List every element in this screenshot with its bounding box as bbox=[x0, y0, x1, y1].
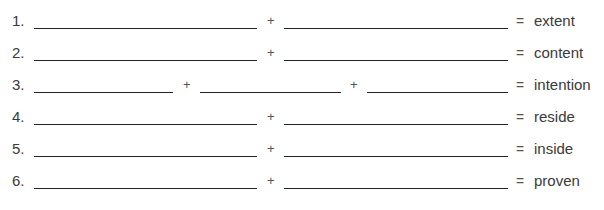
row-number: 6. bbox=[12, 171, 25, 191]
result-word: proven bbox=[534, 171, 580, 191]
answer-blank-2[interactable] bbox=[284, 28, 508, 29]
plus-sign: + bbox=[267, 12, 275, 30]
equals-sign: = bbox=[516, 171, 524, 191]
exercise-row-6: 6. + = proven bbox=[0, 171, 604, 203]
row-number: 2. bbox=[12, 43, 25, 63]
plus-sign: + bbox=[183, 76, 191, 94]
answer-blank-1[interactable] bbox=[34, 60, 257, 61]
equals-sign: = bbox=[516, 107, 524, 127]
equals-sign: = bbox=[516, 43, 524, 63]
answer-blank-1[interactable] bbox=[34, 28, 257, 29]
result-word: inside bbox=[534, 139, 573, 159]
result-word: extent bbox=[534, 11, 575, 31]
answer-blank-2[interactable] bbox=[284, 60, 508, 61]
result-word: intention bbox=[534, 75, 591, 95]
answer-blank-2[interactable] bbox=[200, 92, 341, 93]
plus-sign: + bbox=[267, 172, 275, 190]
answer-blank-1[interactable] bbox=[34, 92, 173, 93]
exercise-row-3: 3. + + = intention bbox=[0, 75, 604, 107]
row-number: 1. bbox=[12, 11, 25, 31]
equals-sign: = bbox=[516, 11, 524, 31]
row-number: 4. bbox=[12, 107, 25, 127]
plus-sign: + bbox=[350, 76, 358, 94]
result-word: content bbox=[534, 43, 583, 63]
answer-blank-1[interactable] bbox=[34, 124, 257, 125]
exercise-row-5: 5. + = inside bbox=[0, 139, 604, 171]
result-word: reside bbox=[534, 107, 575, 127]
equals-sign: = bbox=[516, 75, 524, 95]
answer-blank-1[interactable] bbox=[34, 188, 257, 189]
row-number: 3. bbox=[12, 75, 25, 95]
exercise-row-4: 4. + = reside bbox=[0, 107, 604, 139]
answer-blank-3[interactable] bbox=[367, 92, 508, 93]
equals-sign: = bbox=[516, 139, 524, 159]
plus-sign: + bbox=[267, 44, 275, 62]
plus-sign: + bbox=[267, 108, 275, 126]
answer-blank-1[interactable] bbox=[34, 156, 257, 157]
exercise-row-2: 2. + = content bbox=[0, 43, 604, 75]
exercise-row-1: 1. + = extent bbox=[0, 11, 604, 43]
answer-blank-2[interactable] bbox=[284, 188, 508, 189]
answer-blank-2[interactable] bbox=[284, 124, 508, 125]
answer-blank-2[interactable] bbox=[284, 156, 508, 157]
plus-sign: + bbox=[267, 140, 275, 158]
row-number: 5. bbox=[12, 139, 25, 159]
